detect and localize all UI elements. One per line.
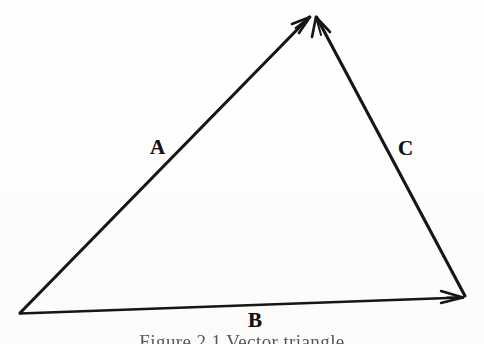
vector-a-line bbox=[20, 17, 310, 313]
vector-b-line bbox=[20, 298, 462, 314]
vector-triangle-figure: A B C Figure 2.1 Vector triangle bbox=[0, 0, 484, 344]
vector-diagram-canvas bbox=[0, 0, 484, 344]
figure-caption: Figure 2.1 Vector triangle bbox=[0, 331, 484, 344]
vector-c-line bbox=[317, 17, 466, 296]
vector-label-a: A bbox=[150, 137, 166, 158]
vector-label-b: B bbox=[248, 310, 263, 331]
vector-label-c: C bbox=[398, 138, 414, 159]
